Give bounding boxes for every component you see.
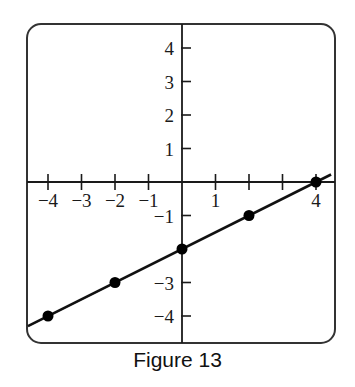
data-point	[311, 177, 322, 188]
figure-caption: Figure 13	[0, 348, 355, 372]
x-tick-label: −3	[71, 190, 91, 211]
y-tick-label: 2	[165, 105, 175, 126]
data-point	[177, 244, 188, 255]
y-tick-label: −4	[154, 306, 175, 327]
y-tick-label: −1	[154, 206, 174, 227]
y-tick-label: −3	[154, 273, 174, 294]
plot-frame	[27, 24, 335, 343]
x-tick-label: −4	[38, 190, 59, 211]
y-tick-label: 1	[165, 139, 175, 160]
y-tick-label: 3	[165, 72, 175, 93]
data-point	[43, 311, 54, 322]
data-point	[244, 210, 255, 221]
y-tick-label: 4	[165, 38, 175, 59]
data-point	[110, 277, 121, 288]
x-tick-label: 1	[211, 190, 221, 211]
x-tick-label: 4	[311, 190, 321, 211]
x-tick-label: −2	[105, 190, 125, 211]
axes	[27, 24, 335, 343]
chart: −4−3−2−1144321−1−3−4	[0, 0, 355, 345]
